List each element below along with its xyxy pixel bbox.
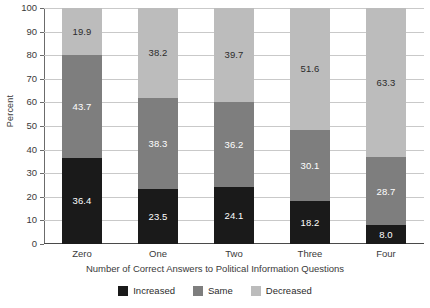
y-axis-tick-label: 30 bbox=[26, 168, 37, 178]
y-axis-title: Percent bbox=[5, 79, 15, 143]
bar-segment-value: 38.3 bbox=[149, 139, 168, 149]
y-axis-tick-mark bbox=[40, 126, 44, 127]
y-axis-tick-mark bbox=[40, 244, 44, 245]
bar-segment-value: 63.3 bbox=[377, 78, 396, 88]
y-axis-tick-label: 80 bbox=[26, 50, 37, 60]
bar-segment-value: 39.7 bbox=[225, 50, 244, 60]
bar-segment-same[interactable]: 28.7 bbox=[366, 157, 406, 225]
bar-segment-same[interactable]: 36.2 bbox=[214, 102, 254, 187]
y-axis-tick-label: 0 bbox=[32, 239, 37, 249]
bar-segment-value: 36.4 bbox=[73, 196, 92, 206]
bar-segment-decreased[interactable]: 63.3 bbox=[366, 8, 406, 157]
y-axis-tick-mark bbox=[40, 79, 44, 80]
stacked-bar[interactable]: 38.238.323.5 bbox=[138, 8, 178, 244]
y-axis-tick-mark bbox=[40, 55, 44, 56]
bar-segment-value: 8.0 bbox=[379, 230, 393, 240]
stacked-bar[interactable]: 19.943.736.4 bbox=[62, 8, 102, 244]
bar-segment-value: 51.6 bbox=[301, 64, 320, 74]
chart-figure: Percent 0102030405060708090100 19.943.73… bbox=[0, 0, 430, 308]
stacked-bar[interactable]: 51.630.118.2 bbox=[290, 8, 330, 244]
x-axis-title: Number of Correct Answers to Political I… bbox=[0, 263, 430, 274]
legend-label: Same bbox=[208, 285, 233, 296]
x-axis-tick-label: Three bbox=[270, 248, 350, 259]
legend-item-decreased[interactable]: Decreased bbox=[251, 285, 312, 296]
x-axis-tick-label: One bbox=[118, 248, 198, 259]
bar-segment-value: 24.1 bbox=[225, 211, 244, 221]
x-axis-tick-label: Four bbox=[346, 248, 426, 259]
y-axis-tick-label: 10 bbox=[26, 216, 37, 226]
y-axis-tick-mark bbox=[40, 150, 44, 151]
y-axis-tick-label: 100 bbox=[21, 3, 37, 13]
bar-segment-value: 38.2 bbox=[149, 48, 168, 58]
y-axis-tick-mark bbox=[40, 32, 44, 33]
y-axis-tick-label: 20 bbox=[26, 192, 37, 202]
legend-item-increased[interactable]: Increased bbox=[118, 285, 175, 296]
legend-swatch-same bbox=[193, 286, 203, 296]
bar-segment-increased[interactable]: 24.1 bbox=[214, 187, 254, 244]
bar-segment-decreased[interactable]: 39.7 bbox=[214, 8, 254, 102]
bar-segment-value: 30.1 bbox=[301, 161, 320, 171]
bar-segment-value: 23.5 bbox=[149, 212, 168, 222]
y-axis-tick-label: 70 bbox=[26, 74, 37, 84]
bar-segment-same[interactable]: 38.3 bbox=[138, 98, 178, 188]
bar-segment-decreased[interactable]: 51.6 bbox=[290, 8, 330, 130]
bar-segment-increased[interactable]: 18.2 bbox=[290, 201, 330, 244]
y-axis-tick-label: 90 bbox=[26, 27, 37, 37]
bar-segment-value: 43.7 bbox=[73, 102, 92, 112]
bar-segment-value: 18.2 bbox=[301, 218, 320, 228]
bar-segment-decreased[interactable]: 38.2 bbox=[138, 8, 178, 98]
y-axis-tick-mark bbox=[40, 220, 44, 221]
x-axis-tick-label: Zero bbox=[42, 248, 122, 259]
bar-segment-same[interactable]: 43.7 bbox=[62, 55, 102, 158]
y-axis-tick-label: 40 bbox=[26, 145, 37, 155]
y-axis-tick-mark bbox=[40, 197, 44, 198]
bar-segment-increased[interactable]: 8.0 bbox=[366, 225, 406, 244]
legend-swatch-increased bbox=[118, 286, 128, 296]
bar-segment-value: 36.2 bbox=[225, 140, 244, 150]
x-axis-tick-label: Two bbox=[194, 248, 274, 259]
y-axis-tick-label: 60 bbox=[26, 98, 37, 108]
y-axis-tick-mark bbox=[40, 8, 44, 9]
bar-segment-same[interactable]: 30.1 bbox=[290, 130, 330, 201]
legend-item-same[interactable]: Same bbox=[193, 285, 233, 296]
plot-area: 0102030405060708090100 19.943.736.438.23… bbox=[44, 8, 424, 244]
bar-segment-value: 28.7 bbox=[377, 187, 396, 197]
legend-label: Decreased bbox=[266, 285, 312, 296]
y-axis-tick-mark bbox=[40, 173, 44, 174]
chart-legend: IncreasedSameDecreased bbox=[0, 285, 430, 296]
bar-segment-increased[interactable]: 36.4 bbox=[62, 158, 102, 244]
stacked-bar[interactable]: 39.736.224.1 bbox=[214, 8, 254, 244]
y-axis-tick-label: 50 bbox=[26, 121, 37, 131]
legend-label: Increased bbox=[133, 285, 175, 296]
stacked-bar[interactable]: 63.328.78.0 bbox=[366, 8, 406, 244]
bar-segment-increased[interactable]: 23.5 bbox=[138, 189, 178, 244]
legend-swatch-decreased bbox=[251, 286, 261, 296]
bar-segment-decreased[interactable]: 19.9 bbox=[62, 8, 102, 55]
y-axis-tick-mark bbox=[40, 102, 44, 103]
bar-segment-value: 19.9 bbox=[73, 27, 92, 37]
